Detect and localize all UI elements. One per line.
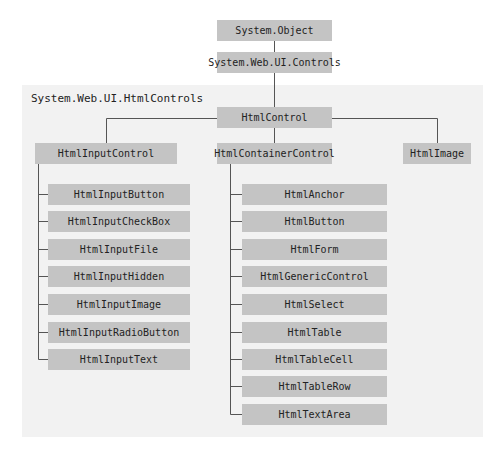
html-input-control-node: HtmlInputControl	[35, 143, 177, 164]
system-object-node: System.Object	[217, 20, 332, 41]
html-container-control-node: HtmlContainerControl	[217, 143, 332, 164]
html-table-node: HtmlTable	[242, 322, 387, 343]
html-input-hidden-node: HtmlInputHidden	[48, 266, 190, 287]
html-control-node: HtmlControl	[217, 107, 332, 128]
html-input-image-node: HtmlInputImage	[48, 294, 190, 315]
html-image-node: HtmlImage	[403, 143, 471, 164]
html-table-row-node: HtmlTableRow	[242, 376, 387, 397]
html-input-button-node: HtmlInputButton	[48, 184, 190, 205]
html-button-node: HtmlButton	[242, 211, 387, 232]
html-input-checkbox-node: HtmlInputCheckBox	[48, 211, 190, 232]
html-form-node: HtmlForm	[242, 239, 387, 260]
html-select-node: HtmlSelect	[242, 294, 387, 315]
html-anchor-node: HtmlAnchor	[242, 184, 387, 205]
html-textarea-node: HtmlTextArea	[242, 404, 387, 425]
system-web-ui-controls-node: System.Web.UI.Controls	[217, 52, 332, 73]
html-input-text-node: HtmlInputText	[48, 349, 190, 370]
html-input-radiobutton-node: HtmlInputRadioButton	[48, 322, 190, 343]
html-input-file-node: HtmlInputFile	[48, 239, 190, 260]
html-table-cell-node: HtmlTableCell	[242, 349, 387, 370]
html-generic-control-node: HtmlGenericControl	[242, 266, 387, 287]
